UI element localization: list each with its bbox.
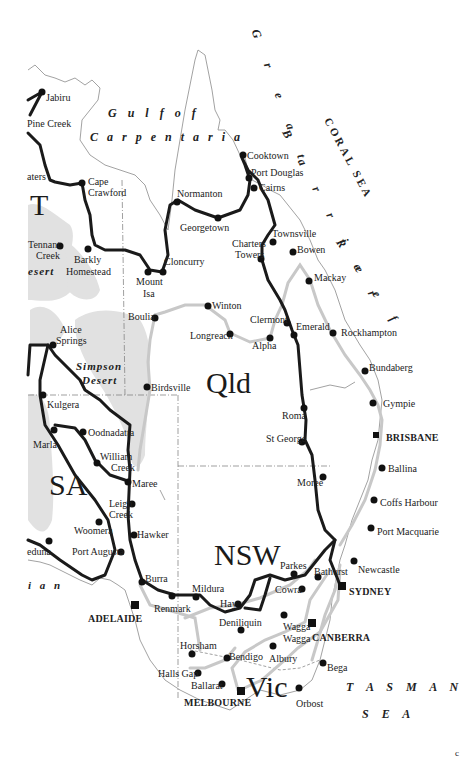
town-label-rockhampton: Rockhampton <box>341 327 397 338</box>
capital-label-brisbane: BRISBANE <box>386 432 439 443</box>
town-label-cooktown: Cooktown <box>247 150 289 161</box>
town-label-clermont: Clermont <box>250 314 288 325</box>
vic-state-label: Vic <box>246 672 288 702</box>
sa-state-label: SA <box>49 470 87 500</box>
town-label-newcastle: Newcastle <box>358 564 400 575</box>
nsw-state-label: NSW <box>214 540 281 570</box>
tasman-sea-label: S E A <box>362 709 415 720</box>
town-label-cape: Cape <box>88 176 109 187</box>
town-label-bathurst: Bathurst <box>314 566 348 577</box>
town-label-leigh-creek: Creek <box>109 509 133 520</box>
town-label-cairns: Cairns <box>259 182 285 193</box>
town-label-townsville: Townsville <box>272 228 316 239</box>
town-label-longreach: Longreach <box>190 330 233 341</box>
town-label-pine-creek: Pine Creek <box>27 118 71 129</box>
town-label-hay: Hay <box>220 598 237 609</box>
town-label-maree: Maree <box>132 478 158 489</box>
town-label-mackay: Mackay <box>314 272 346 283</box>
town-label-tennant-creek: Creek <box>36 250 60 261</box>
town-label-homestead: Homestead <box>66 266 111 277</box>
town-label-springs: Springs <box>56 335 87 346</box>
town-label-alice: Alice <box>60 324 82 335</box>
town-label-ceduna-fragment: eduna <box>27 546 51 557</box>
town-label-ballina: Ballina <box>388 463 417 474</box>
town-label-katherine-fragment: aters <box>27 171 46 182</box>
town-label-albury: Albury <box>269 653 297 664</box>
southern-ocean-fragment: i a n <box>28 580 63 591</box>
town-label-mildura: Mildura <box>192 583 224 594</box>
town-label-deniliquin: Deniliquin <box>219 617 262 628</box>
town-label-bega: Bega <box>327 662 348 673</box>
town-label-hawker: Hawker <box>137 529 169 540</box>
corner-mark: c <box>455 748 459 758</box>
town-label-roma: Roma <box>282 410 306 421</box>
town-label-crawford: Crawford <box>88 187 126 198</box>
town-label-coffs-harbour: Coffs Harbour <box>380 497 438 508</box>
town-label-mount: Mount <box>136 276 163 287</box>
town-label-bendigo: Bendigo <box>229 651 263 662</box>
town-label-burra: Burra <box>145 573 168 584</box>
town-label-halls-gap: Halls Gap <box>158 668 198 679</box>
town-label-william: William <box>100 451 132 462</box>
town-label-charters: Charters <box>232 238 266 249</box>
town-label-winton: Winton <box>212 300 242 311</box>
town-label-bowen: Bowen <box>297 244 325 255</box>
town-label-jabiru: Jabiru <box>46 92 70 103</box>
town-label-port-augusta: Port Augusta <box>72 546 124 557</box>
town-label-isa: Isa <box>143 288 155 299</box>
nt-state-label: T <box>30 190 48 220</box>
town-label-marla: Marla <box>33 439 57 450</box>
town-label-horsham: Horsham <box>180 640 217 651</box>
town-label-boulia: Boulia <box>128 311 155 322</box>
town-label-towers: Towers <box>235 249 264 260</box>
town-label-barkly: Barkly <box>74 254 101 265</box>
capital-label-adelaide: ADELAIDE <box>88 613 142 624</box>
town-label-woomera: Woomera <box>74 525 113 536</box>
town-label-wagga-2: Wagga <box>283 633 311 644</box>
simpson-desert-label-2: Desert <box>82 375 117 386</box>
town-label-cloncurry: Cloncurry <box>164 256 205 267</box>
town-label-emerald: Emerald <box>296 321 330 332</box>
town-label-tennant: Tennant <box>28 239 60 250</box>
town-label-birdsville: Birdsville <box>151 382 190 393</box>
capital-label-canberra: CANBERRA <box>312 632 370 643</box>
gulf-label-line1: G u l f o f <box>108 108 200 119</box>
town-label-port-douglas: Port Douglas <box>251 167 304 178</box>
capital-label-melbourne: MELBOURNE <box>184 697 251 708</box>
town-label-renmark: Renmark <box>154 603 191 614</box>
capital-label-sydney: SYDNEY <box>349 586 391 597</box>
town-label-alpha: Alpha <box>252 340 276 351</box>
tasman-label: T A S M A N <box>346 682 463 693</box>
town-label-oodnadatta: Oodnadatta <box>88 427 134 438</box>
town-label-port-macquarie: Port Macquarie <box>377 526 439 537</box>
town-label-georgetown: Georgetown <box>180 222 229 233</box>
gulf-label-line2: C a r p e n t a r i a <box>90 132 243 143</box>
town-label-moree: Moree <box>297 477 323 488</box>
desert-fragment-label: esert <box>28 266 54 277</box>
town-label-orbost: Orbost <box>296 698 323 709</box>
town-label-leigh: Leigh <box>109 498 132 509</box>
simpson-desert-label-1: Simpson <box>76 361 122 372</box>
town-label-ballarat: Ballarat <box>191 680 223 691</box>
town-label-gympie: Gympie <box>383 398 415 409</box>
town-label-kulgera: Kulgera <box>47 399 79 410</box>
town-label-parkes: Parkes <box>280 560 307 571</box>
town-label-st-george: St George <box>266 433 306 444</box>
town-label-normanton: Normanton <box>177 188 223 199</box>
town-label-cowra: Cowra <box>275 584 302 595</box>
town-label-bundaberg: Bundaberg <box>369 362 413 373</box>
town-label-william-creek: Creek <box>111 462 135 473</box>
town-label-wagga-1: Wagga <box>283 621 311 632</box>
qld-state-label: Qld <box>206 368 251 398</box>
